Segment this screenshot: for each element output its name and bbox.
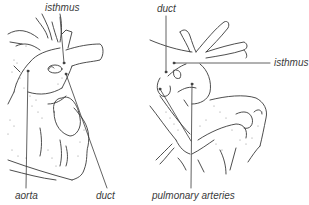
line-drawing (0, 0, 309, 205)
anatomy-figure: isthmus aorta duct duct isthmus pulmonar… (0, 0, 309, 205)
left-heart-drawing (8, 14, 103, 180)
label-duct-left: duct (96, 191, 115, 201)
label-pulmonary-arteries: pulmonary arteries (152, 191, 235, 201)
right-heart-drawing (150, 21, 267, 174)
label-isthmus-right: isthmus (274, 58, 308, 68)
label-isthmus-left: isthmus (45, 3, 79, 13)
left-stippling (8, 44, 85, 167)
label-aorta: aorta (15, 191, 38, 201)
right-leader-lines (159, 16, 270, 188)
label-duct-right: duct (157, 4, 176, 14)
